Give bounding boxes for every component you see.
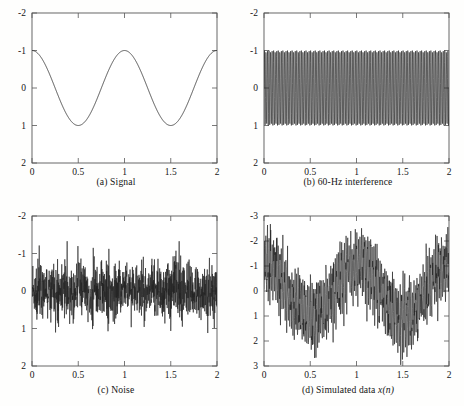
x-tick-label: 2 — [447, 370, 452, 380]
x-tick-label: 2 — [447, 167, 452, 177]
x-tick-label: 2 — [215, 370, 220, 380]
panel-noise-plot: 210-1-200.511.52 — [0, 203, 232, 406]
y-tick-label: 0 — [21, 83, 26, 93]
panel-interference: 210-1-200.511.52 (b) 60-Hz interference — [232, 0, 464, 203]
y-tick-label: 2 — [21, 158, 26, 168]
y-tick-label: -1 — [250, 261, 258, 271]
x-tick-label: 1.5 — [397, 167, 409, 177]
data-trace — [264, 51, 449, 126]
y-tick-label: 0 — [253, 83, 258, 93]
y-tick-label: -3 — [250, 211, 258, 221]
y-tick-label: 3 — [253, 361, 258, 371]
x-tick-label: 0 — [262, 370, 267, 380]
figure-panel-grid: 210-1-200.511.52 (a) Signal 210-1-200.51… — [0, 0, 464, 406]
y-tick-label: 0 — [253, 286, 258, 296]
x-tick-label: 1.5 — [165, 167, 177, 177]
y-tick-label: 2 — [253, 158, 258, 168]
y-tick-label: 2 — [21, 361, 26, 371]
y-tick-label: -1 — [18, 46, 26, 56]
x-tick-label: 0.5 — [72, 370, 84, 380]
y-tick-label: 1 — [253, 311, 258, 321]
caption-italic-d: x(n) — [378, 384, 394, 395]
panel-simulated-data: 3210-1-2-300.511.52 (d) Simulated data x… — [232, 203, 464, 406]
panel-signal-caption: (a) Signal — [0, 176, 232, 187]
y-tick-label: 2 — [253, 336, 258, 346]
panel-noise: 210-1-200.511.52 (c) Noise — [0, 203, 232, 406]
x-tick-label: 1 — [122, 370, 127, 380]
panel-interference-caption: (b) 60-Hz interference — [232, 176, 464, 187]
x-tick-label: 1 — [354, 370, 359, 380]
x-tick-label: 1.5 — [397, 370, 409, 380]
y-tick-label: -2 — [250, 8, 258, 18]
x-tick-label: 0.5 — [72, 167, 84, 177]
panel-noise-caption: (c) Noise — [0, 384, 232, 395]
y-tick-label: -2 — [18, 8, 26, 18]
caption-text-a: (a) Signal — [96, 176, 135, 187]
y-tick-label: -2 — [18, 211, 26, 221]
y-tick-label: -1 — [250, 46, 258, 56]
x-tick-label: 0 — [30, 167, 35, 177]
x-tick-label: 1.5 — [165, 370, 177, 380]
panel-signal-plot: 210-1-200.511.52 — [0, 0, 232, 203]
axes-frame — [32, 13, 217, 163]
panel-simulated-data-caption: (d) Simulated data x(n) — [232, 384, 464, 395]
y-tick-label: 1 — [253, 121, 258, 131]
x-tick-label: 2 — [215, 167, 220, 177]
y-tick-label: -2 — [250, 236, 258, 246]
panel-simulated-data-plot: 3210-1-2-300.511.52 — [232, 203, 464, 406]
x-tick-label: 1 — [122, 167, 127, 177]
x-tick-label: 0 — [262, 167, 267, 177]
panel-signal: 210-1-200.511.52 (a) Signal — [0, 0, 232, 203]
y-tick-label: 1 — [21, 324, 26, 334]
y-tick-label: -1 — [18, 249, 26, 259]
y-tick-label: 0 — [21, 286, 26, 296]
x-tick-label: 1 — [354, 167, 359, 177]
x-tick-label: 0.5 — [304, 370, 316, 380]
y-tick-label: 1 — [21, 121, 26, 131]
caption-text-c: (c) Noise — [98, 384, 135, 395]
caption-text-d: (d) Simulated data — [302, 384, 378, 395]
x-tick-label: 0 — [30, 370, 35, 380]
caption-text-b: (b) 60-Hz interference — [303, 176, 392, 187]
panel-interference-plot: 210-1-200.511.52 — [232, 0, 464, 203]
x-tick-label: 0.5 — [304, 167, 316, 177]
